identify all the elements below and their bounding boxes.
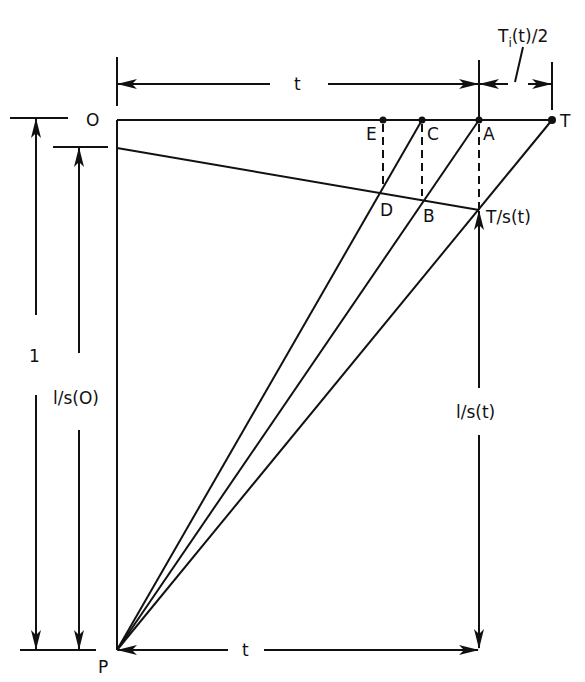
point-C bbox=[419, 117, 426, 124]
label-top-t: t bbox=[294, 74, 301, 94]
point-A bbox=[476, 117, 483, 124]
label-Ti: Ti(t)/2 bbox=[497, 26, 548, 50]
label-E: E bbox=[366, 124, 377, 144]
diagram-canvas: O P E C A T D B T/s(t) t Ti(t)/2 1 l/s(O… bbox=[0, 0, 585, 682]
label-B: B bbox=[423, 206, 435, 226]
label-D: D bbox=[380, 200, 393, 220]
label-O: O bbox=[86, 110, 99, 130]
label-bottom-t: t bbox=[242, 640, 249, 660]
label-1: 1 bbox=[29, 346, 40, 366]
label-T: T bbox=[559, 111, 571, 131]
label-P: P bbox=[98, 657, 108, 677]
label-l-over-s-O: l/s(O) bbox=[53, 388, 99, 408]
label-C: C bbox=[427, 124, 439, 144]
Ti-leader bbox=[515, 47, 523, 82]
label-l-over-s-t: l/s(t) bbox=[456, 402, 495, 422]
point-E bbox=[380, 117, 387, 124]
point-T bbox=[548, 116, 556, 124]
ray-P-T bbox=[117, 120, 552, 650]
label-T-over-s-t: T/s(t) bbox=[485, 207, 531, 227]
ray-P-C bbox=[117, 120, 422, 650]
label-A: A bbox=[483, 124, 495, 144]
ray-P-A bbox=[117, 120, 479, 650]
